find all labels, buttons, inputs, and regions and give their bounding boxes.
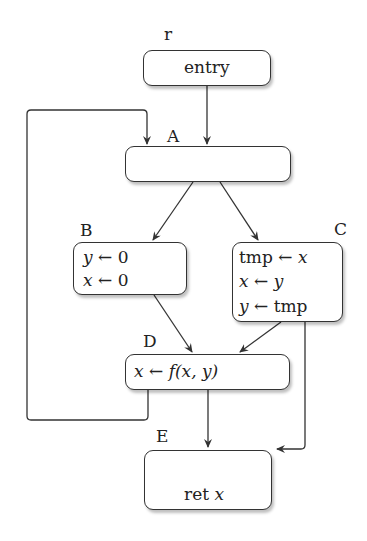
node-label-D: D <box>143 333 157 350</box>
edge-B-D <box>154 295 192 352</box>
node-E: ret x <box>144 450 272 510</box>
stmt-c1: tmp ← x <box>239 249 308 266</box>
node-label-E: E <box>156 428 168 445</box>
node-A <box>125 146 291 182</box>
node-label-A: A <box>167 128 179 145</box>
edge-A-B <box>153 182 193 240</box>
edge-C-D <box>240 322 281 352</box>
node-label-r: r <box>164 26 172 43</box>
stmt-e1: ret x <box>184 486 224 503</box>
node-label-C: C <box>334 221 347 238</box>
node-B: y ← 0 x ← 0 <box>73 242 187 295</box>
edge-A-C <box>220 182 258 240</box>
stmt-d1: x ← f(x, y) <box>134 363 218 380</box>
node-entry: entry <box>143 50 271 86</box>
entry-text: entry <box>184 59 230 76</box>
stmt-c3: y ← tmp <box>239 298 308 315</box>
stmt-b2: x ← 0 <box>83 272 128 289</box>
node-D: x ← f(x, y) <box>125 354 290 390</box>
stmt-b1: y ← 0 <box>83 249 129 266</box>
stmt-c2: x ← y <box>239 273 283 290</box>
node-C: tmp ← x x ← y y ← tmp <box>232 242 343 322</box>
node-label-B: B <box>80 222 93 239</box>
